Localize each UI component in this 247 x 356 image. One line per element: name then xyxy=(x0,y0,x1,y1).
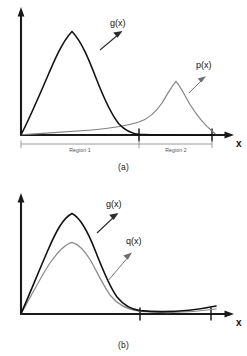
curve-q-x xyxy=(21,242,216,313)
y-axis-a xyxy=(18,7,25,136)
leader-arrow-p-x xyxy=(189,76,206,93)
curve-label-q-x-b: q(x) xyxy=(126,236,142,246)
x-axis-b xyxy=(20,310,234,317)
x-axis-label-b: x xyxy=(236,317,242,328)
panel-a: g(x) p(x) x Region 1 Region 2 xyxy=(0,0,247,178)
panel-caption-b: (b) xyxy=(0,340,247,350)
panel-b: g(x) q(x) x xyxy=(0,178,247,356)
panel-b-plot xyxy=(0,178,247,356)
curve-g-x xyxy=(21,32,216,136)
curve-label-g-x-a: g(x) xyxy=(110,18,126,28)
figure-container: g(x) p(x) x Region 1 Region 2 (a) xyxy=(0,0,247,356)
leader-arrow-g-x-b xyxy=(97,213,119,233)
y-axis-b xyxy=(18,193,25,315)
x-axis-label-a: x xyxy=(236,138,242,149)
region-label-1: Region 1 xyxy=(55,147,105,153)
leader-arrow-q-x xyxy=(107,253,132,283)
curve-p-x xyxy=(21,81,216,135)
region-label-2: Region 2 xyxy=(151,147,201,153)
curve-label-g-x-b: g(x) xyxy=(106,199,122,209)
leader-arrow-g-x xyxy=(100,31,123,50)
panel-caption-a: (a) xyxy=(0,162,247,172)
curve-label-p-x-a: p(x) xyxy=(196,60,212,70)
